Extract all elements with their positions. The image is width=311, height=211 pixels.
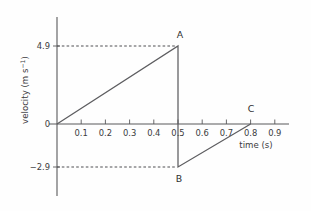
- y-axis-title-main: velocity (m s: [20, 68, 30, 124]
- x-tick-label-1: 0.2: [99, 128, 112, 138]
- x-tick-label-3: 0.4: [147, 128, 160, 138]
- x-tick-label-4: 0.5: [171, 128, 184, 138]
- velocity-time-graph-figure: 0.1 0.2 0.3 0.4 0.5 0.6 0.7 0.8 0.9 4.9 …: [0, 0, 311, 211]
- y-axis-title-exponent: −1: [19, 59, 26, 68]
- velocity-series-line: [57, 46, 251, 167]
- x-tick-label-2: 0.3: [123, 128, 136, 138]
- x-tick-label-0: 0.1: [75, 128, 88, 138]
- y-tick-label-upper: 4.9: [37, 41, 50, 51]
- chart-canvas: 0.1 0.2 0.3 0.4 0.5 0.6 0.7 0.8 0.9 4.9 …: [0, 0, 311, 211]
- x-tick-label-5: 0.6: [196, 128, 209, 138]
- x-axis-title: time (s): [239, 140, 272, 150]
- y-axis-title-close: ): [20, 56, 30, 59]
- x-tick-label-8: 0.9: [268, 128, 281, 138]
- x-tick-label-7: 0.8: [244, 128, 257, 138]
- y-tick-label-lower: −2.9: [30, 162, 50, 172]
- y-tick-label-origin: 0: [45, 119, 50, 129]
- y-axis-title: velocity (m s−1): [19, 56, 31, 124]
- point-label-c: C: [248, 103, 255, 114]
- point-label-b: B: [176, 173, 182, 184]
- x-tick-label-6: 0.7: [220, 128, 233, 138]
- point-label-a: A: [177, 29, 184, 40]
